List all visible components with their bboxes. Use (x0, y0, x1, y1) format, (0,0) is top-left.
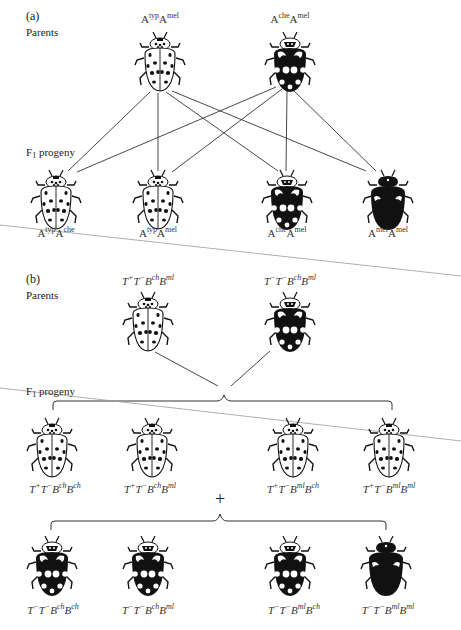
progeny-brace-1 (53, 395, 392, 410)
beetle-typical-icon (132, 30, 188, 94)
beetle-typical-icon (124, 416, 180, 480)
genotype-label: AcheAmel (270, 12, 309, 25)
beetle-typical-icon (120, 290, 176, 354)
beetle-melanic-icon (358, 534, 414, 598)
panel-a-label: (a) (26, 10, 39, 22)
beetle-typical-icon (28, 168, 84, 232)
beetle-typical-icon (265, 416, 321, 480)
genotype-label: AcheAmel (267, 226, 306, 239)
beetle-spotted-icon (262, 30, 318, 94)
genotype-label: T+T−BchBml (124, 482, 176, 495)
cross-lines-b (155, 351, 270, 386)
genotype-label: T+T−BchBml (122, 274, 174, 287)
plus-sign: + (215, 490, 225, 508)
genotype-label: T−T−BmlBch (268, 603, 320, 616)
panel-b-label: (b) (26, 273, 40, 285)
beetle-spotted-icon (259, 168, 315, 232)
progeny-brace-2 (51, 514, 386, 530)
genotype-label: AmelAmel (368, 226, 408, 239)
genotype-label: AtypAmel (141, 12, 179, 25)
genotype-label: T−T−BchBml (122, 603, 174, 616)
genotype-label: AtypAche (37, 226, 74, 239)
genotype-label: T+T−BmlBch (267, 482, 319, 495)
panel-b-f1-label: F1 progeny (26, 386, 75, 399)
genotype-label: T+T−BmlBml (363, 482, 416, 495)
beetle-typical-icon (361, 416, 417, 480)
beetle-melanic-icon (360, 168, 416, 232)
panel-b-parents-label: Parents (26, 290, 58, 301)
panel-a-parents-label: Parents (26, 27, 58, 38)
beetle-typical-icon (24, 416, 80, 480)
genotype-label: T−T−BchBml (264, 274, 316, 287)
genotype-label: T+T−BchBch (29, 482, 81, 495)
beetle-spotted-icon (262, 290, 318, 354)
cross-lines-a (68, 87, 376, 172)
beetle-spotted-icon (120, 534, 176, 598)
genotype-label: T−T−BchBch (27, 603, 79, 616)
beetle-spotted-icon (262, 534, 318, 598)
beetle-spotted-icon (24, 534, 80, 598)
genotype-label: T−T−BmlBml (362, 603, 415, 616)
genotype-label: AtypAmel (139, 226, 177, 239)
beetle-typical-icon (130, 168, 186, 232)
panel-a-f1-label: F1 progeny (26, 147, 75, 160)
